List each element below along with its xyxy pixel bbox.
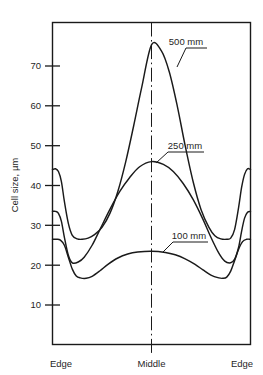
- series-label-100mm: 100 mm: [172, 230, 206, 241]
- x-label-edge-left: Edge: [50, 358, 72, 369]
- y-tick-label-30: 30: [30, 220, 41, 231]
- chart-container: 70 60 50 40 30 20 10 Cell size, µm 500 m…: [0, 0, 263, 375]
- y-tick-label-40: 40: [30, 180, 41, 191]
- y-axis-title: Cell size, µm: [9, 158, 20, 213]
- cell-size-line-chart: 70 60 50 40 30 20 10 Cell size, µm 500 m…: [0, 0, 263, 375]
- y-tick-label-10: 10: [30, 299, 41, 310]
- x-label-middle: Middle: [138, 358, 166, 369]
- y-tick-label-20: 20: [30, 260, 41, 271]
- series-label-500mm: 500 mm: [169, 36, 203, 47]
- y-tick-label-70: 70: [30, 60, 41, 71]
- x-label-edge-right: Edge: [231, 358, 253, 369]
- series-label-250mm: 250 mm: [168, 140, 202, 151]
- y-tick-label-50: 50: [30, 140, 41, 151]
- y-tick-label-60: 60: [30, 100, 41, 111]
